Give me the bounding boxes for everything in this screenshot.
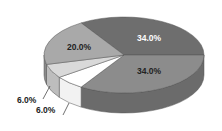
leader-line-white [63,103,69,115]
leader-line-light [43,86,50,99]
pie-chart: 34.0% 34.0% 20.0% 6.0% 6.0% [0,0,222,131]
pie-top-faces [44,17,204,93]
label-white-slice: 6.0% [36,105,56,115]
label-dark-slice: 34.0% [137,33,162,43]
label-medium-slice: 34.0% [137,66,162,76]
label-left-slice: 20.0% [67,42,92,52]
label-light-slice: 6.0% [17,95,37,105]
